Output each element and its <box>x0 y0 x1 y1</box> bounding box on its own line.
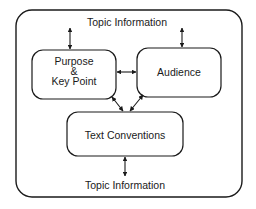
text-conventions-label: Text Conventions <box>67 130 183 141</box>
arrow-purpose-textconv <box>112 97 123 111</box>
topic-information-top-label: Topic Information <box>78 17 176 28</box>
arrow-audience-textconv <box>130 95 143 111</box>
purpose-label-line3: Key Point <box>32 76 116 87</box>
outer-frame <box>16 10 242 197</box>
topic-information-bottom-label: Topic Information <box>76 180 174 191</box>
purpose-node: Purpose & Key Point <box>32 56 116 87</box>
diagram-canvas <box>0 0 256 209</box>
audience-label: Audience <box>137 67 221 78</box>
